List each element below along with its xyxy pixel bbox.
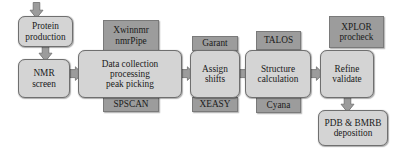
step-data-collection-label: Data collection processing peak picking [79, 59, 181, 89]
step-refine-validate-label: Refine validate [321, 64, 373, 84]
tag-xeasy[interactable]: XEASY [192, 97, 238, 112]
tag-cyana-label: Cyana [257, 100, 300, 110]
step-pdb-bmrb-deposition[interactable]: PDB & BMRB deposition [318, 110, 388, 146]
step-assign-shifts-label: Assign shifts [191, 64, 239, 84]
tag-garant[interactable]: Garant [192, 36, 238, 51]
tag-xeasy-label: XEASY [193, 99, 237, 109]
nmr-workflow-diagram: Protein production NMR screen Xwinnmr nm… [0, 0, 404, 152]
step-protein-production[interactable]: Protein production [18, 16, 73, 47]
step-data-collection[interactable]: Data collection processing peak picking [78, 50, 182, 98]
step-nmr-screen[interactable]: NMR screen [18, 59, 70, 98]
step-structure-calculation-label: Structure calculation [246, 64, 310, 84]
step-assign-shifts[interactable]: Assign shifts [190, 50, 240, 98]
tag-xplor-procheck[interactable]: XPLOR procheck [329, 16, 384, 48]
step-protein-production-label: Protein production [19, 21, 72, 41]
tag-spscan[interactable]: SPSCAN [103, 97, 159, 112]
tag-xplor-procheck-label: XPLOR procheck [330, 22, 383, 42]
tag-talos-label: TALOS [257, 35, 300, 45]
tag-talos[interactable]: TALOS [256, 31, 301, 50]
tag-garant-label: Garant [193, 38, 237, 48]
step-nmr-screen-label: NMR screen [19, 68, 69, 88]
tag-cyana[interactable]: Cyana [256, 97, 301, 113]
tag-xwinnmr-nmrpipe-label: Xwinnmr nmrPipe [104, 25, 158, 45]
step-structure-calculation[interactable]: Structure calculation [245, 50, 311, 98]
step-pdb-bmrb-deposition-label: PDB & BMRB deposition [319, 118, 387, 138]
tag-xwinnmr-nmrpipe[interactable]: Xwinnmr nmrPipe [103, 20, 159, 51]
step-refine-validate[interactable]: Refine validate [320, 50, 374, 98]
tag-spscan-label: SPSCAN [104, 99, 158, 109]
